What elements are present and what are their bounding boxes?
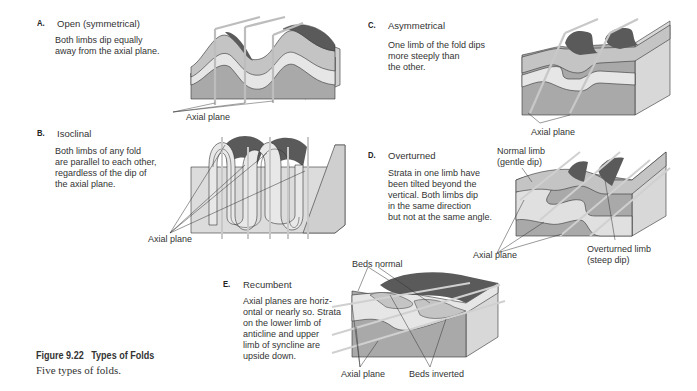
isoclinal-fold-diagram <box>185 125 345 250</box>
asymmetrical-fold-diagram <box>510 15 697 140</box>
figure-number: Figure 9.22 <box>36 349 84 361</box>
panel-e-description: Axial planes are horiz- ontal or nearly … <box>243 296 341 362</box>
panel-d-letter: D. <box>368 150 376 160</box>
panel-d-title: Overturned <box>388 150 436 161</box>
panel-e-title: Recumbent <box>243 279 292 290</box>
figure-title: Types of Folds <box>91 349 154 361</box>
panel-d-overturned-limb-label: Overturned limb (steep dip) <box>587 244 651 265</box>
panel-b-letter: B. <box>37 128 45 138</box>
panel-a-description: Both limbs dip equally away from the axi… <box>55 35 160 57</box>
panel-a-axial-plane-label: Axial plane <box>186 112 230 123</box>
panel-c-axial-plane-label: Axial plane <box>531 127 575 138</box>
panel-e-beds-normal-label: Beds normal <box>352 259 403 270</box>
panel-e-letter: E. <box>223 279 230 289</box>
panel-b-axial-plane-label: Axial plane <box>148 234 192 245</box>
panel-b-title: Isoclinal <box>57 128 91 139</box>
panel-d-normal-limb-label: Normal limb (gentle dip) <box>497 146 545 167</box>
panel-e-axial-plane-label: Axial plane <box>341 369 385 380</box>
panel-c-description: One limb of the fold dips more steeply t… <box>388 40 485 73</box>
figure-caption-text: Five types of folds. <box>36 364 121 376</box>
panel-a-letter: A. <box>37 18 45 28</box>
panel-e-beds-inverted-label: Beds inverted <box>409 369 464 380</box>
panel-c-title: Asymmetrical <box>388 20 445 31</box>
panel-d-description: Strata in one limb have been tilted beyo… <box>388 168 492 223</box>
panel-c-letter: C. <box>368 20 376 30</box>
panel-b-description: Both limbs of any fold are parallel to e… <box>55 146 157 190</box>
open-fold-diagram <box>185 15 345 125</box>
panel-a-title: Open (symmetrical) <box>57 18 140 29</box>
figure-caption-title: Figure 9.22 Types of Folds <box>36 349 154 361</box>
